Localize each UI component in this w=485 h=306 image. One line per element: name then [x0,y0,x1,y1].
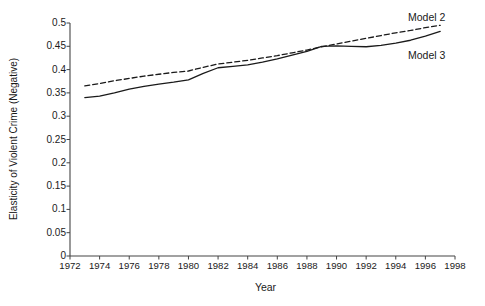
y-axis-tick-label: 0.35 [20,88,66,98]
y-axis-tick-label: 0.45 [20,41,66,51]
y-axis-tick-label: 0.2 [20,158,66,168]
y-axis-tick-label: 0.1 [20,204,66,214]
series-annotation-model-2: Model 2 [408,11,445,23]
y-axis-tick-label: 0.15 [20,181,66,191]
x-axis-title-text: Year [255,281,276,293]
series-line-model-3 [85,31,440,97]
y-axis-tick-label: 0.5 [20,18,66,28]
y-axis-tick-label: 0.3 [20,111,66,121]
y-axis-tick-label: 0.25 [20,135,66,145]
series-annotation-model-3: Model 3 [408,49,445,61]
x-axis-tick-label: 1998 [438,261,472,271]
y-axis-tick-label: 0.05 [20,228,66,238]
y-axis-tick-label: 0.4 [20,65,66,75]
x-axis-title: Year [0,281,485,293]
chart-figure: Elasticity of Violent Crime (Negative) 0… [0,0,485,306]
series-line-model-2 [85,25,440,86]
